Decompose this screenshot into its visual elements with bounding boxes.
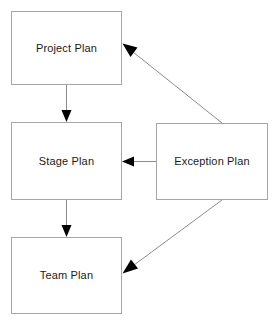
- edge-exception-to-stage: [122, 157, 156, 167]
- node-stage-plan[interactable]: Stage Plan: [11, 122, 122, 200]
- node-project-plan-label: Project Plan: [36, 42, 97, 55]
- node-project-plan[interactable]: Project Plan: [11, 11, 122, 85]
- node-team-plan-label: Team Plan: [40, 269, 93, 282]
- edge-project-to-stage: [62, 85, 72, 122]
- edge-exception-to-project: [123, 44, 223, 124]
- diagram-canvas: Project Plan Stage Plan Team Plan Except…: [0, 0, 275, 321]
- edge-stage-to-team: [62, 200, 72, 237]
- edge-exception-to-team: [123, 200, 223, 274]
- node-stage-plan-label: Stage Plan: [39, 155, 94, 168]
- node-exception-plan-label: Exception Plan: [174, 155, 249, 168]
- node-exception-plan[interactable]: Exception Plan: [156, 123, 268, 200]
- node-team-plan[interactable]: Team Plan: [11, 237, 122, 314]
